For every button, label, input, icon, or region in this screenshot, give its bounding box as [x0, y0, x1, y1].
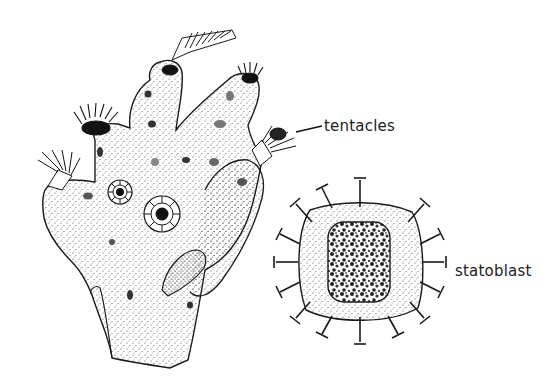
- tentacles-leader-line: [296, 126, 322, 132]
- tentacle-crown-top: [162, 30, 236, 75]
- rosette-large: [144, 196, 180, 232]
- diagram-canvas: [0, 0, 555, 389]
- statoblast-capsule: [328, 222, 390, 302]
- tentacle-crown-right: [252, 126, 296, 166]
- statoblast-label: statoblast: [455, 262, 532, 280]
- bryozoan-colony: [38, 30, 322, 368]
- rosette-small: [108, 180, 132, 204]
- statoblast: [274, 178, 446, 344]
- tentacles-label: tentacles: [324, 117, 395, 135]
